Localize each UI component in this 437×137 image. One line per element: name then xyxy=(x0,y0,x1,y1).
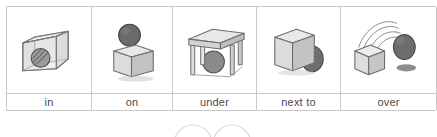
label-wrap-over: over xyxy=(341,93,436,110)
illustration-under xyxy=(173,7,256,93)
label-wrap-in: in xyxy=(7,93,91,110)
label-wrap-on: on xyxy=(92,93,172,110)
label-wrap-next-to: next to xyxy=(257,93,340,110)
table-top xyxy=(189,29,244,49)
ball-on-top-of-cube-icon xyxy=(92,7,172,93)
sphere xyxy=(119,24,141,46)
illustration-over xyxy=(341,7,436,93)
partial-circle-left xyxy=(174,125,212,137)
partial-circle-marks xyxy=(0,110,430,137)
striped-ball xyxy=(31,49,50,68)
cube xyxy=(355,45,385,75)
table-cell-in[interactable]: in xyxy=(7,7,92,110)
cube xyxy=(114,45,154,77)
cell-label-next-to: next to xyxy=(281,97,315,108)
partial-circle-right xyxy=(213,125,251,137)
table-cell-on[interactable]: on xyxy=(92,7,173,110)
table-cell-next-to[interactable]: next to xyxy=(257,7,341,110)
cell-label-on: on xyxy=(126,97,139,108)
cell-label-under: under xyxy=(200,97,229,108)
sphere-under xyxy=(203,51,225,73)
cell-label-over: over xyxy=(377,97,399,108)
ball-beside-cube-icon xyxy=(257,7,340,93)
cube xyxy=(275,29,315,71)
illustration-in xyxy=(7,7,91,93)
ball-shadow xyxy=(396,64,416,71)
ball-under-table-icon xyxy=(173,7,256,93)
label-wrap-under: under xyxy=(173,93,256,110)
table-cell-under[interactable]: under xyxy=(173,7,257,110)
preposition-table: in on xyxy=(6,6,436,111)
ball-inside-transparent-box-icon xyxy=(7,7,91,93)
table-cell-over[interactable]: over xyxy=(341,7,437,110)
cell-label-in: in xyxy=(45,97,54,108)
ball-flying-over-cube-icon xyxy=(341,7,436,93)
illustration-on xyxy=(92,7,172,93)
illustration-next-to xyxy=(257,7,340,93)
sphere-flying xyxy=(393,35,415,60)
